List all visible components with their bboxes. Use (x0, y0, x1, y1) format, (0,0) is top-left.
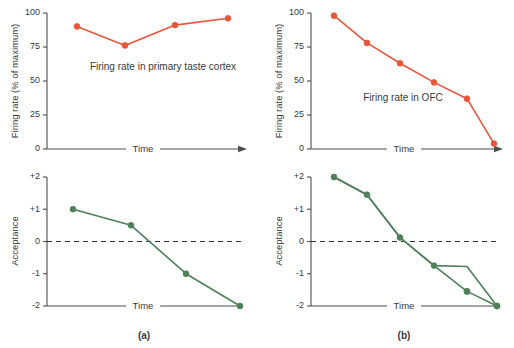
panel-a-acceptance-y-axis-title: Acceptance (9, 216, 20, 266)
panel-a-acceptance-chart: +2 +1 0 -1 -2 Acceptance Time (9, 171, 243, 312)
panel-b-firing-data-point (431, 80, 437, 86)
panel-a-firing-ticklabel-2: 50 (30, 75, 40, 85)
panel-b-acceptance-ticklabel-4: -2 (296, 300, 304, 310)
panel-b-firing-data-point (464, 96, 470, 102)
panel-a-firing-data-point (225, 15, 231, 21)
panel-a-acceptance-x-axis-title: Time (133, 300, 154, 311)
panel-a-firing-annotation: Firing rate in primary taste cortex (90, 61, 236, 72)
panel-a-firing-ticklabel-3: 25 (30, 109, 40, 119)
panel-a-firing-ticklabel-1: 75 (30, 41, 40, 51)
panel-a-acceptance-ticklabel-1: +1 (30, 204, 40, 214)
panel-b-firing-ticklabel-4: 0 (299, 143, 304, 153)
panel-a-acceptance-data-point (70, 206, 76, 212)
panel-b-firing-x-axis-title: Time (394, 143, 415, 154)
panel-a-firing-data-line (77, 18, 228, 45)
panel-b-firing-data-point (491, 141, 497, 147)
panel-b-firing-ticklabel-0: 100 (289, 7, 304, 17)
panel-b-acceptance-y-axis-title: Acceptance (273, 216, 284, 266)
figure-container: 100 75 50 25 0 Firing rate (% of maximum… (0, 0, 514, 348)
panel-b-firing-annotation: Firing rate in OFC (363, 92, 442, 103)
panel-b-firing-data-point (331, 13, 337, 19)
panel-b-acceptance-data-point (464, 289, 470, 295)
panel-b-acceptance-ticklabel-2: 0 (299, 236, 304, 246)
panel-b-firing-ticklabel-2: 50 (294, 75, 304, 85)
panel-a-firing-data-point (74, 24, 80, 30)
panel-a-acceptance-ticklabel-3: -1 (32, 268, 40, 278)
panel-b-firing-chart: 100 75 50 25 0 Firing rate (% of maximum… (273, 7, 503, 155)
panel-b-firing-data-line (334, 16, 494, 144)
panel-a-acceptance-ticklabel-4: -2 (32, 300, 40, 310)
panel-a-acceptance-ticklabel-2: 0 (35, 236, 40, 246)
panel-b-time-arrow-icon (494, 146, 503, 152)
panel-a-acceptance-ticklabel-0: +2 (30, 171, 40, 181)
panel-a-acceptance-data-line (73, 209, 240, 306)
panel-label-b: (b) (398, 330, 411, 341)
panel-b-firing-y-axis-title: Firing rate (% of maximum) (273, 24, 284, 139)
figure-svg: 100 75 50 25 0 Firing rate (% of maximum… (0, 0, 514, 348)
panel-a-firing-x-axis-title: Time (133, 143, 154, 154)
panel-a-firing-data-point (122, 43, 128, 49)
panel-b-firing-data-point (364, 40, 370, 46)
panel-b-acceptance-ticklabel-0: +2 (294, 171, 304, 181)
panel-a-acceptance-data-point (237, 303, 243, 309)
panel-a-firing-chart: 100 75 50 25 0 Firing rate (% of maximum… (9, 7, 247, 155)
panel-b-acceptance-ticklabel-1: +1 (294, 204, 304, 214)
panel-b-acceptance-ticklabel-3: -1 (296, 268, 304, 278)
panel-b-acceptance-x-axis-title: Time (394, 300, 415, 311)
panel-b-firing-ticklabel-3: 25 (294, 109, 304, 119)
panel-a-firing-ticklabel-0: 100 (25, 7, 40, 17)
panel-b-firing-data-point (397, 60, 403, 66)
panel-a-firing-y-axis-title: Firing rate (% of maximum) (9, 24, 20, 139)
panel-a-firing-data-point (172, 22, 178, 28)
panel-a-firing-ticklabel-4: 0 (35, 143, 40, 153)
panel-b-acceptance-data-point (494, 303, 500, 309)
panel-label-a: (a) (138, 330, 150, 341)
panel-a-acceptance-data-point (128, 222, 134, 228)
panel-a-acceptance-data-point (183, 271, 189, 277)
panel-b-firing-ticklabel-1: 75 (294, 41, 304, 51)
panel-a-time-arrow-icon (238, 146, 247, 152)
